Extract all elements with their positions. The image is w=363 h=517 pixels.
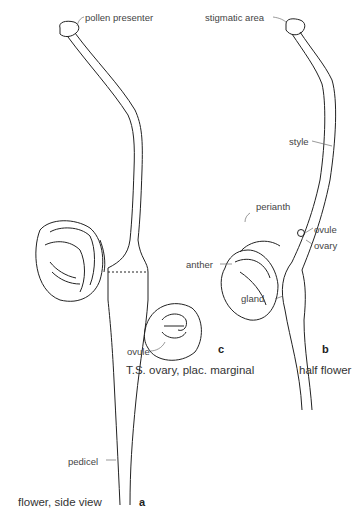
label-style: style	[289, 137, 309, 147]
label-ovule-c: ovule	[127, 347, 150, 357]
botanical-illustration	[0, 0, 363, 517]
caption-panel-b: half flower	[299, 365, 351, 377]
label-stigmatic-area: stigmatic area	[205, 13, 264, 23]
caption-panel-a: flower, side view	[18, 497, 102, 509]
label-pedicel: pedicel	[68, 457, 98, 467]
label-perianth: perianth	[256, 202, 290, 212]
panel-letter-c: c	[218, 344, 224, 355]
panel-b-drawing	[221, 19, 335, 410]
panel-letter-a: a	[139, 497, 145, 508]
panel-letter-b: b	[322, 344, 329, 355]
panel-c-drawing	[144, 304, 201, 361]
label-anther: anther	[186, 260, 213, 270]
label-ovary: ovary	[314, 241, 337, 251]
panel-a-drawing	[36, 21, 148, 505]
caption-panel-c: T.S. ovary, plac. marginal	[126, 365, 254, 377]
label-ovule-b: ovule	[314, 225, 337, 235]
label-pollen-presenter: pollen presenter	[85, 13, 153, 23]
label-gland: gland	[241, 294, 264, 304]
